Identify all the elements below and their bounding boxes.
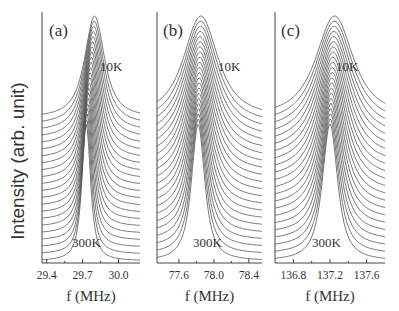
temp-label-10k: 10K bbox=[336, 59, 359, 74]
spectrum-curve bbox=[275, 83, 385, 201]
spectrum-curve bbox=[275, 104, 385, 230]
x-tick-label: 30.0 bbox=[108, 269, 128, 281]
x-tick-label: 136.8 bbox=[280, 269, 306, 281]
x-tick-label: 137.2 bbox=[317, 269, 343, 281]
temp-label-10k: 10K bbox=[218, 59, 241, 74]
x-tick-label: 78.4 bbox=[239, 269, 259, 281]
x-axis-label: f (MHz) bbox=[305, 288, 355, 305]
x-tick-label: 29.7 bbox=[73, 269, 93, 281]
x-axis-label: f (MHz) bbox=[66, 288, 116, 305]
x-tick-label: 78.0 bbox=[204, 269, 224, 281]
spectrum-curve bbox=[275, 57, 385, 165]
panel-b: 77.678.078.4f (MHz)(b)10K300K bbox=[157, 12, 262, 305]
temp-label-300k: 300K bbox=[72, 235, 102, 250]
x-tick-label: 137.6 bbox=[354, 269, 380, 281]
x-tick-label: 77.6 bbox=[169, 269, 189, 281]
panel-label: (a) bbox=[49, 21, 68, 40]
x-tick-label: 29.4 bbox=[37, 269, 57, 281]
panel-label: (c) bbox=[281, 21, 300, 40]
stacked-spectra-figure: 29.429.730.0f (MHz)(a)10K300K77.678.078.… bbox=[0, 0, 399, 311]
spectrum-curve bbox=[275, 93, 385, 215]
spectrum-curve bbox=[275, 98, 385, 222]
spectrum-curve bbox=[275, 62, 385, 172]
x-axis-label: f (MHz) bbox=[185, 288, 235, 305]
temp-label-300k: 300K bbox=[312, 235, 342, 250]
panel-a: 29.429.730.0f (MHz)(a)10K300K bbox=[37, 12, 140, 305]
spectrum-curve bbox=[275, 37, 385, 137]
temp-label-10k: 10K bbox=[100, 59, 123, 74]
temp-label-300k: 300K bbox=[193, 235, 223, 250]
panel-label: (b) bbox=[163, 21, 183, 40]
spectrum-curve bbox=[157, 26, 262, 124]
spectrum-curve bbox=[157, 114, 262, 245]
panel-c: 136.8137.2137.6f (MHz)(c)10K300K bbox=[275, 12, 385, 305]
spectrum-curve bbox=[157, 68, 262, 182]
